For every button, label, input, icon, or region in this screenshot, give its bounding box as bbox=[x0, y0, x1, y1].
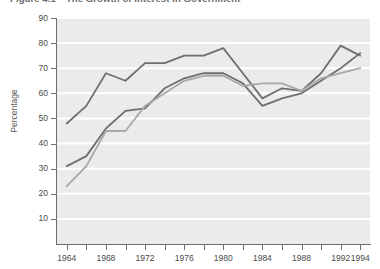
y-axis-tick-label: 90 bbox=[14, 14, 48, 23]
x-axis-tick bbox=[223, 245, 224, 250]
figure-caption-label: Figure 4.1 bbox=[10, 0, 56, 4]
y-axis-tick-label: 10 bbox=[14, 214, 48, 223]
x-axis-tick bbox=[126, 245, 127, 250]
y-axis-tick-label: 40 bbox=[14, 139, 48, 148]
x-axis-tick bbox=[262, 245, 263, 250]
y-axis-tick-label: 80 bbox=[14, 39, 48, 48]
x-axis-tick bbox=[341, 245, 342, 250]
y-axis-tick-label: 30 bbox=[14, 164, 48, 173]
y-axis-tick bbox=[51, 93, 56, 94]
x-axis-tick bbox=[321, 245, 322, 250]
x-axis-tick bbox=[302, 245, 303, 250]
x-axis-tick bbox=[360, 245, 361, 250]
figure-root: Figure 4.1The Growth of Interest in Gove… bbox=[0, 0, 380, 269]
x-axis-tick bbox=[184, 245, 185, 250]
y-axis-tick bbox=[51, 43, 56, 44]
y-axis-tick bbox=[51, 219, 56, 220]
series-line-series-2 bbox=[67, 53, 360, 166]
x-axis-tick-label: 1964 bbox=[47, 253, 87, 263]
x-axis-tick-label: 1994 bbox=[340, 253, 380, 263]
x-axis-tick bbox=[86, 245, 87, 250]
y-axis-tick bbox=[51, 144, 56, 145]
x-axis-tick bbox=[282, 245, 283, 250]
plot-area bbox=[57, 18, 370, 244]
y-axis-tick-label: 50 bbox=[14, 114, 48, 123]
x-axis-tick bbox=[106, 245, 107, 250]
x-axis-tick-label: 1980 bbox=[203, 253, 243, 263]
y-axis-tick bbox=[51, 194, 56, 195]
gridlines bbox=[57, 18, 370, 219]
x-axis-tick bbox=[145, 245, 146, 250]
x-axis-tick bbox=[165, 245, 166, 250]
figure-caption: Figure 4.1The Growth of Interest in Gove… bbox=[10, 0, 370, 4]
y-axis-tick bbox=[51, 68, 56, 69]
line-chart-svg bbox=[57, 18, 370, 244]
x-axis-tick bbox=[204, 245, 205, 250]
y-axis-tick bbox=[51, 118, 56, 119]
x-axis-tick-label: 1976 bbox=[164, 253, 204, 263]
x-axis-tick bbox=[243, 245, 244, 250]
y-axis-line bbox=[56, 18, 57, 245]
y-axis-tick-label: 60 bbox=[14, 89, 48, 98]
series-lines bbox=[67, 46, 360, 187]
x-axis-line bbox=[56, 244, 371, 245]
y-axis-tick bbox=[51, 169, 56, 170]
y-axis-tick-label: 70 bbox=[14, 64, 48, 73]
y-axis-tick-label: 20 bbox=[14, 189, 48, 198]
x-axis-tick-label: 1972 bbox=[125, 253, 165, 263]
x-axis-tick-label: 1988 bbox=[282, 253, 322, 263]
x-axis-tick-label: 1968 bbox=[86, 253, 126, 263]
x-axis-tick bbox=[67, 245, 68, 250]
x-axis-tick-label: 1984 bbox=[242, 253, 282, 263]
figure-caption-text: The Growth of Interest in Government bbox=[66, 0, 241, 4]
y-axis-tick bbox=[51, 18, 56, 19]
